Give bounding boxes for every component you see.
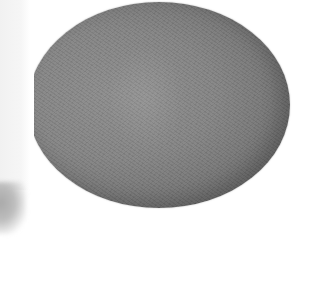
lid-clip [34, 0, 327, 298]
toilet-lid-cover [34, 2, 290, 208]
product-photo [0, 0, 327, 298]
fabric-highlight [107, 43, 186, 156]
background-strip [0, 0, 30, 190]
shadow-blob [0, 182, 26, 234]
